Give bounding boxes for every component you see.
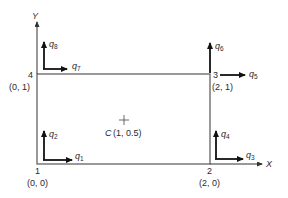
centroid: C (1, 0.5): [105, 115, 142, 138]
node-1-id: 1: [35, 166, 40, 176]
dof-q5: q5: [249, 69, 258, 80]
dof-q1: q1: [75, 151, 84, 162]
node-3-coords: (2, 1): [212, 82, 233, 92]
dof-q4: q4: [221, 129, 230, 140]
node-3: 3 (2, 1) q6 q5: [210, 41, 258, 92]
x-axis: X: [210, 159, 273, 169]
node-2-id: 2: [207, 166, 212, 176]
node-3-id: 3: [213, 70, 218, 80]
node-2: 2 (2, 0) q4 q3: [199, 129, 255, 188]
node-2-coords: (2, 0): [199, 178, 220, 188]
centroid-coords: (1, 0.5): [113, 128, 142, 138]
dof-q7: q7: [72, 61, 81, 72]
x-axis-label: X: [265, 159, 273, 169]
node-4-id: 4: [28, 70, 33, 80]
node-1: 1 (0, 0) q2 q1: [27, 129, 84, 188]
element-rectangle: [37, 74, 210, 164]
dof-q2: q2: [49, 129, 58, 140]
node-4: 4 (0, 1) q8 q7: [9, 39, 81, 92]
element-diagram: Y X C (1, 0.5) 1 (0, 0) q2 q1 2 (2, 0) q…: [0, 0, 288, 198]
dof-q6: q6: [215, 41, 224, 52]
y-axis-label: Y: [32, 11, 39, 21]
centroid-symbol: C: [105, 128, 112, 138]
dof-q3: q3: [246, 150, 255, 161]
y-axis: Y: [32, 11, 39, 74]
node-4-coords: (0, 1): [9, 82, 30, 92]
dof-q8: q8: [49, 39, 58, 50]
node-1-coords: (0, 0): [27, 178, 48, 188]
